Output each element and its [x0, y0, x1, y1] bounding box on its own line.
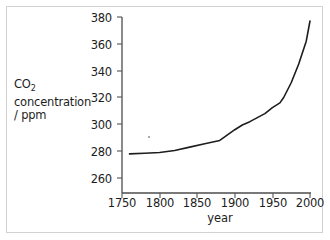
co2-concentration-line: [130, 21, 310, 154]
y-tick-marks: [117, 17, 122, 178]
x-tick-marks: [122, 193, 310, 198]
figure-container: CO2 concentration / ppm 380 360 340 320 …: [0, 0, 330, 240]
plot-area: [0, 0, 330, 240]
